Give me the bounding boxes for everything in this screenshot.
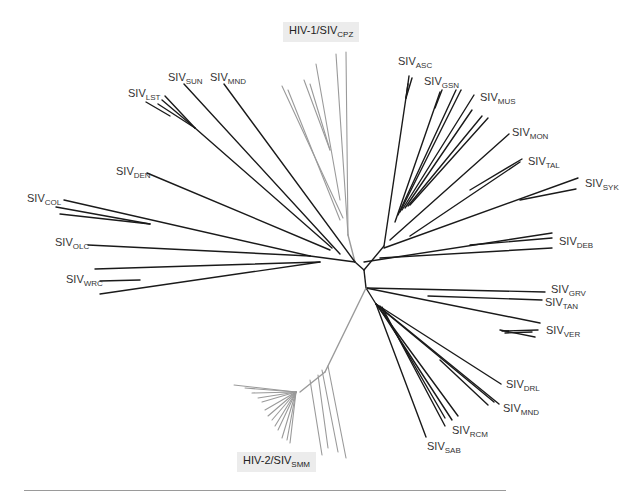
label-siv-mnd-upper: SIVMND	[210, 72, 246, 86]
branch-rcm	[382, 307, 445, 426]
branch-olc	[88, 245, 310, 256]
branch-asc	[384, 84, 408, 246]
label-siv-sab: SIVSAB	[427, 441, 461, 455]
branch-tan	[428, 296, 542, 300]
branch-hub	[355, 262, 364, 270]
label-siv-gsn: SIVGSN	[424, 76, 459, 90]
phylogenetic-tree	[0, 0, 634, 500]
label-siv-olc: SIVOLC	[55, 237, 89, 251]
branch-sun	[184, 84, 340, 254]
label-siv-lst: SIVLST	[128, 88, 160, 102]
branch-rcm	[378, 306, 452, 420]
label-siv-ver: SIVVER	[546, 325, 580, 339]
branch-hiv1-leaf	[316, 64, 340, 200]
branch-mnd2	[440, 360, 488, 405]
branch-tal	[470, 159, 522, 190]
label-siv-mnd-lower: SIVMND	[503, 403, 539, 417]
branch-hiv2-stem	[325, 288, 366, 372]
branch-hub	[364, 270, 366, 288]
branch-mus	[408, 116, 482, 206]
group-label-text: HIV-2/SIV	[243, 454, 291, 466]
label-siv-col: SIVCOL	[27, 193, 61, 207]
group-label-text: HIV-1/SIV	[289, 24, 337, 36]
branch-hiv1-leaf	[282, 86, 343, 218]
branch-gsn-tip	[435, 90, 442, 108]
branch-deb	[380, 248, 552, 258]
group-label-sub: CPZ	[337, 30, 353, 39]
label-siv-tal: SIVTAL	[528, 156, 560, 170]
branch-syk	[520, 189, 576, 200]
branch-wrc	[100, 280, 140, 281]
branch-mus	[402, 95, 474, 210]
branch-ver	[505, 332, 532, 333]
branch-mus	[405, 110, 472, 208]
label-siv-syk: SIVSYK	[585, 178, 619, 192]
branch-den	[147, 173, 330, 250]
group-label-hiv2-smm: HIV-2/SIVSMM	[237, 452, 316, 472]
label-siv-mus: SIVMUS	[480, 92, 516, 106]
group-label-hiv1-cpz: HIV-1/SIVCPZ	[283, 22, 359, 42]
branch-hiv2-leaf	[322, 370, 338, 452]
label-siv-tan: SIVTAN	[545, 297, 578, 311]
branch-mus	[398, 90, 456, 215]
label-siv-sun: SIVSUN	[168, 72, 203, 86]
branch-gsn	[395, 92, 440, 222]
branch-col	[64, 200, 310, 256]
branch-ver	[502, 330, 538, 331]
label-siv-den: SIVDEN	[116, 166, 151, 180]
label-siv-asc: SIVASC	[398, 56, 432, 70]
branch-hiv2-leaf	[272, 392, 296, 420]
branch-hiv2-stem	[300, 372, 325, 392]
branch-mus	[400, 90, 461, 212]
branch-wrc	[95, 262, 320, 269]
group-label-sub: SMM	[291, 460, 310, 469]
label-siv-wrc: SIVWRC	[66, 274, 103, 288]
label-siv-drl: SIVDRL	[506, 379, 540, 393]
label-siv-deb: SIVDEB	[559, 236, 593, 250]
branch-hiv1-leaf	[310, 84, 330, 150]
branch-drl	[376, 304, 501, 384]
branch-left	[310, 256, 355, 262]
branch-grv	[366, 288, 545, 292]
branch-wrc	[100, 262, 320, 294]
label-siv-rcm: SIVRCM	[452, 425, 488, 439]
label-siv-mon: SIVMON	[512, 127, 548, 141]
branch-lst-stem	[195, 128, 332, 248]
bottom-rule-divider	[24, 490, 506, 491]
